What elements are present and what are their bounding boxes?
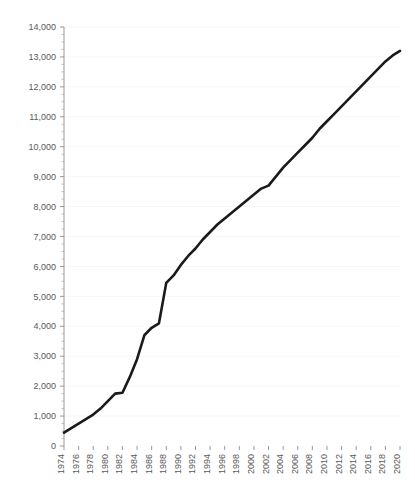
x-tick-label: 2010 — [319, 454, 329, 474]
y-tick-label: 2,000 — [33, 381, 56, 391]
y-tick-label: 11,000 — [29, 112, 56, 122]
series-line — [64, 51, 400, 433]
gridlines — [64, 27, 400, 416]
y-tick-label: 9,000 — [33, 172, 56, 182]
x-tick-label: 1986 — [144, 454, 154, 474]
chart-container: 01,0002,0003,0004,0005,0006,0007,0008,00… — [0, 0, 415, 501]
y-tick-label: 10,000 — [28, 142, 56, 152]
x-tick-label: 1978 — [85, 454, 95, 474]
x-tick-label: 2014 — [348, 454, 358, 474]
x-tick-label: 2002 — [261, 454, 271, 474]
x-tick-label: 1988 — [158, 454, 168, 474]
y-tick-label: 3,000 — [33, 351, 56, 361]
y-tick-label: 8,000 — [33, 202, 56, 212]
y-tick-label: 5,000 — [33, 292, 56, 302]
data-series — [64, 51, 400, 433]
x-tick-label: 2020 — [392, 454, 402, 474]
y-tick-label: 1,000 — [33, 411, 56, 421]
line-chart: 01,0002,0003,0004,0005,0006,0007,0008,00… — [0, 0, 415, 501]
y-axis-tick-labels: 01,0002,0003,0004,0005,0006,0007,0008,00… — [28, 22, 56, 451]
x-tick-label: 1990 — [173, 454, 183, 474]
x-tick-label: 1998 — [231, 454, 241, 474]
x-tick-label: 2004 — [275, 454, 285, 474]
x-axis-tick-labels: 1974197619781980198219841986198819901992… — [56, 454, 402, 474]
y-tick-label: 7,000 — [33, 232, 56, 242]
y-tick-label: 12,000 — [28, 82, 56, 92]
y-tick-label: 14,000 — [28, 22, 56, 32]
x-tick-label: 1992 — [187, 454, 197, 474]
y-tick-label: 13,000 — [28, 52, 56, 62]
y-tick-label: 0 — [51, 441, 56, 451]
y-axis — [60, 27, 64, 446]
x-tick-label: 2006 — [290, 454, 300, 474]
x-tick-label: 2000 — [246, 454, 256, 474]
x-tick-label: 1984 — [129, 454, 139, 474]
x-tick-label: 1974 — [56, 454, 66, 474]
x-tick-label: 2018 — [377, 454, 387, 474]
y-tick-label: 4,000 — [33, 321, 56, 331]
x-tick-label: 2012 — [334, 454, 344, 474]
x-tick-label: 2016 — [363, 454, 373, 474]
y-tick-label: 6,000 — [33, 262, 56, 272]
x-tick-label: 1994 — [202, 454, 212, 474]
x-tick-label: 1982 — [114, 454, 124, 474]
x-tick-label: 1996 — [217, 454, 227, 474]
x-tick-label: 1980 — [100, 454, 110, 474]
x-tick-label: 2008 — [304, 454, 314, 474]
x-axis — [64, 446, 400, 450]
x-tick-label: 1976 — [71, 454, 81, 474]
